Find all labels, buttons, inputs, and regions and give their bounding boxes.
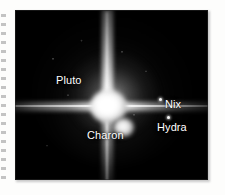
photo-inner-edge	[15, 10, 208, 180]
label-pluto: Pluto	[56, 75, 82, 86]
vertical-diffraction-spike	[102, 10, 113, 180]
astronomy-photograph: Pluto Charon Nix Hydra	[15, 10, 208, 180]
horizontal-diffraction-spike-core	[15, 105, 208, 107]
vertical-diffraction-spike-core	[106, 12, 108, 180]
image-grain-speckle	[35, 28, 185, 168]
page-background: Pluto Charon Nix Hydra	[0, 0, 225, 195]
label-charon: Charon	[87, 130, 124, 141]
nix-point-marker-icon	[159, 98, 162, 101]
hydra-point-marker-icon	[167, 116, 170, 119]
pluto-outer-halo	[33, 16, 193, 166]
label-nix: Nix	[165, 99, 181, 110]
charon-body	[113, 118, 134, 137]
page-perforation-marks	[1, 14, 6, 180]
horizontal-diffraction-spike	[15, 102, 208, 111]
pluto-inner-halo	[67, 52, 159, 138]
pluto-body	[90, 90, 127, 123]
label-hydra: Hydra	[157, 122, 187, 133]
